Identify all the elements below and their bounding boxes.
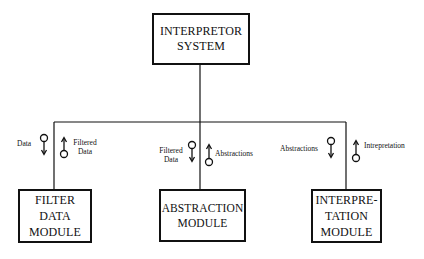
abstraction-module-box: ABSTRACTION MODULE — [159, 189, 246, 242]
flow-label-abstractions: Abstractions — [280, 144, 328, 153]
box-label: FILTER DATA MODULE — [29, 192, 81, 240]
box-label: INTERPRE- TATION MODULE — [315, 192, 377, 240]
data-couple-down-icon — [41, 135, 48, 155]
data-couple-down-icon — [328, 138, 335, 158]
flow-label-abstractions: Abstractions — [215, 149, 265, 158]
data-couple-down-icon — [189, 142, 196, 162]
flow-label-data: Data — [17, 139, 37, 148]
structure-chart: INTERPRETOR SYSTEM FILTER DATA MODULE AB… — [0, 0, 424, 259]
interpretation-module-box: INTERPRE- TATION MODULE — [311, 189, 382, 243]
flow-label-intrepretation: Intrepretation — [364, 141, 424, 150]
interpretor-system-box: INTERPRETOR SYSTEM — [152, 13, 250, 65]
flow-label-filtered-data: Filtered Data — [156, 146, 186, 164]
data-couple-up-icon — [353, 141, 360, 162]
data-couple-up-icon — [206, 145, 213, 166]
box-label: INTERPRETOR SYSTEM — [160, 24, 242, 54]
data-couple-up-icon — [61, 138, 68, 158]
box-label: ABSTRACTION MODULE — [162, 201, 244, 231]
flow-label-filtered-data: Filtered Data — [69, 138, 101, 156]
filter-data-module-box: FILTER DATA MODULE — [18, 189, 92, 243]
